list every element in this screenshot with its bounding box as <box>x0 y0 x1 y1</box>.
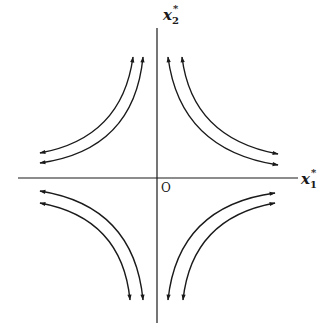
y-axis-label: x2* <box>163 6 184 24</box>
trajectory-lower-left-outer <box>40 203 130 300</box>
trajectory-lower-right-inner <box>168 193 275 300</box>
trajectory-lower-right-outer <box>183 203 275 300</box>
trajectory-upper-left-outer <box>40 57 133 153</box>
x-axis-label: x1* <box>301 170 322 188</box>
phase-diagram <box>0 0 334 336</box>
trajectory-upper-right-outer <box>182 57 278 154</box>
origin-label: O <box>161 181 171 195</box>
trajectory-upper-left-inner <box>40 57 143 163</box>
